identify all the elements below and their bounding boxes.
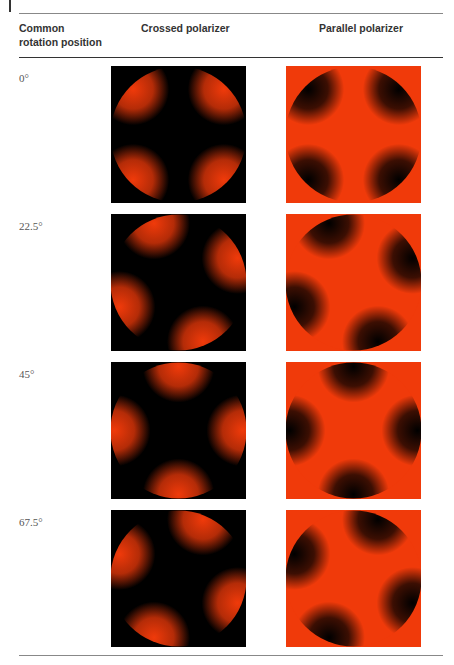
header-parallel-polarizer: Parallel polarizer <box>319 21 403 35</box>
parallel-polarizer-image <box>286 510 421 647</box>
crossed-polarizer-image <box>111 214 246 351</box>
rotation-angle-label: 45° <box>19 368 34 380</box>
crossed-polarizer-image <box>111 510 246 647</box>
parallel-polarizer-image <box>286 362 421 499</box>
header-line-1: Common <box>19 21 102 35</box>
crossed-polarizer-image <box>111 362 246 499</box>
table-bottom-rule <box>19 655 443 656</box>
rotation-angle-label: 0° <box>19 72 29 84</box>
header-rotation-position: Common rotation position <box>19 21 102 49</box>
header-line-2: rotation position <box>19 35 102 49</box>
crossed-polarizer-image <box>111 66 246 203</box>
parallel-polarizer-image <box>286 214 421 351</box>
parallel-polarizer-image <box>286 66 421 203</box>
header-bottom-rule <box>19 57 443 58</box>
table-top-rule <box>19 13 443 14</box>
page-margin-mark <box>9 0 11 12</box>
rotation-angle-label: 67.5° <box>19 516 43 528</box>
header-crossed-polarizer: Crossed polarizer <box>141 21 230 35</box>
rotation-angle-label: 22.5° <box>19 220 43 232</box>
